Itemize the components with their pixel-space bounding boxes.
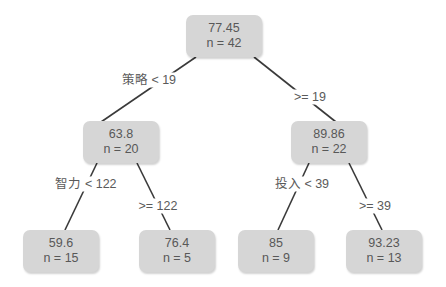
node-mean: 89.86	[313, 127, 344, 142]
node-count: n = 20	[103, 142, 138, 157]
node-count: n = 42	[206, 36, 241, 51]
node-right-right: 93.23 n = 13	[346, 230, 422, 272]
node-root: 77.45 n = 42	[186, 15, 262, 57]
node-count: n = 15	[43, 251, 78, 266]
node-count: n = 22	[311, 142, 346, 157]
node-mean: 59.6	[49, 236, 73, 251]
node-count: n = 13	[366, 251, 401, 266]
node-right: 89.86 n = 22	[291, 121, 367, 163]
split-label-input-ge: >= 39	[357, 199, 393, 214]
node-mean: 85	[269, 236, 283, 251]
node-mean: 93.23	[368, 236, 399, 251]
edge-left-leftleft	[65, 163, 97, 230]
node-mean: 77.45	[208, 21, 239, 36]
split-label-strategy: 策略 < 19	[120, 73, 178, 88]
node-left-right: 76.4 n = 5	[139, 230, 215, 272]
node-left-left: 59.6 n = 15	[23, 230, 99, 272]
edge-right-rightleft	[278, 163, 309, 230]
split-label-input: 投入 < 39	[273, 177, 331, 192]
node-count: n = 5	[163, 251, 191, 266]
split-label-strategy-ge: >= 19	[292, 90, 328, 105]
edge-right-rightright	[349, 163, 382, 230]
node-left: 63.8 n = 20	[83, 121, 159, 163]
node-mean: 63.8	[109, 127, 133, 142]
split-label-intelligence-ge: >= 122	[137, 199, 180, 214]
node-right-left: 85 n = 9	[238, 230, 314, 272]
split-label-intelligence: 智力 < 122	[53, 177, 118, 192]
node-mean: 76.4	[165, 236, 189, 251]
edge-root-left	[101, 57, 196, 122]
node-count: n = 9	[262, 251, 290, 266]
edge-left-leftright	[137, 163, 170, 230]
